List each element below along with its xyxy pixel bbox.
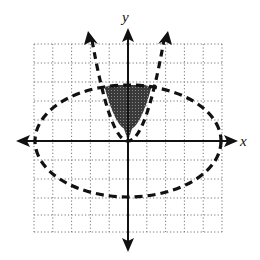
coordinate-graph: y x <box>0 0 260 260</box>
y-axis-label: y <box>120 9 129 25</box>
x-axis-label: x <box>239 133 247 149</box>
